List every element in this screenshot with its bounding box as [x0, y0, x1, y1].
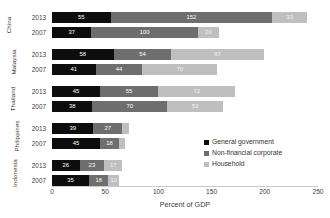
bar-row: 20133927 [0, 123, 330, 134]
year-label: 2007 [22, 139, 46, 148]
bar-value-label: 53 [167, 101, 223, 112]
bar-row: 2007351810 [0, 175, 330, 186]
bar-segment-non-financial-corporate[interactable]: 70 [92, 101, 166, 112]
bar-segment-non-financial-corporate[interactable]: 18 [100, 138, 119, 149]
legend-item[interactable]: Household [204, 159, 282, 169]
legend-label: General government [212, 138, 274, 146]
bar-value-label: 20 [198, 27, 219, 38]
bar-segment-general-government[interactable]: 38 [52, 101, 92, 112]
bar-value-label: 10 [108, 175, 119, 186]
year-label: 2013 [22, 13, 46, 22]
bar-segment-household[interactable]: 33 [272, 12, 307, 23]
bar-value-label: 23 [80, 160, 104, 171]
legend-label: Non-financial corporate [212, 149, 282, 157]
stacked-bar[interactable]: 351810 [52, 175, 119, 186]
bar-value-label: 45 [52, 138, 100, 149]
bar-segment-general-government[interactable]: 58 [52, 49, 114, 60]
x-axis-title: Percent of GDP [52, 200, 318, 209]
bar-row: 20135515233 [0, 12, 330, 23]
stacked-bar[interactable]: 387053 [52, 101, 223, 112]
bar-row: 20073710020 [0, 27, 330, 38]
bar-segment-household[interactable]: 72 [158, 86, 235, 97]
bar-value-label: 27 [93, 123, 122, 134]
bar-segment-household[interactable]: 53 [167, 101, 223, 112]
bar-segment-household[interactable] [122, 123, 128, 134]
legend-label: Household [212, 160, 245, 168]
bar-segment-non-financial-corporate[interactable]: 54 [114, 49, 171, 60]
year-label: 2013 [22, 50, 46, 59]
bar-value-label: 54 [114, 49, 171, 60]
stacked-bar[interactable]: 414470 [52, 64, 217, 75]
bar-value-label: 70 [142, 64, 216, 75]
legend-swatch-icon [204, 162, 209, 167]
stacked-bar[interactable]: 3927 [52, 123, 129, 134]
bar-segment-general-government[interactable]: 45 [52, 138, 100, 149]
x-axis-tick-label: 50 [90, 188, 120, 195]
bar-value-label: 26 [52, 160, 80, 171]
stacked-bar[interactable]: 3710020 [52, 27, 219, 38]
bar-value-label: 70 [92, 101, 166, 112]
bar-row: 2013585487 [0, 49, 330, 60]
bar-segment-household[interactable]: 87 [171, 49, 264, 60]
bar-segment-general-government[interactable]: 37 [52, 27, 91, 38]
bar-segment-non-financial-corporate[interactable]: 152 [111, 12, 273, 23]
stacked-bar[interactable]: 455572 [52, 86, 235, 97]
bar-segment-general-government[interactable]: 26 [52, 160, 80, 171]
bar-value-label: 55 [52, 12, 111, 23]
bar-segment-general-government[interactable]: 41 [52, 64, 96, 75]
country-group: Thailand20134555722007387053 [0, 86, 330, 112]
x-axis-tick-label: 150 [197, 188, 227, 195]
country-group: Malaysia20135854872007414470 [0, 49, 330, 75]
legend-swatch-icon [204, 151, 209, 156]
bar-value-label: 55 [100, 86, 159, 97]
bar-value-label: 39 [52, 123, 93, 134]
x-axis-tick-label: 250 [303, 188, 330, 195]
bar-value-label: 41 [52, 64, 96, 75]
stacked-bar[interactable]: 4518 [52, 138, 125, 149]
bar-segment-household[interactable]: 70 [142, 64, 216, 75]
bar-segment-non-financial-corporate[interactable]: 55 [100, 86, 159, 97]
stacked-bar[interactable]: 262317 [52, 160, 122, 171]
bar-value-label: 152 [111, 12, 273, 23]
bar-segment-non-financial-corporate[interactable]: 27 [93, 123, 122, 134]
bar-value-label: 18 [100, 138, 119, 149]
chart-legend: General governmentNon-financial corporat… [204, 137, 282, 170]
year-label: 2013 [22, 124, 46, 133]
bar-segment-household[interactable]: 20 [198, 27, 219, 38]
bar-value-label: 44 [96, 64, 143, 75]
year-label: 2007 [22, 176, 46, 185]
year-label: 2007 [22, 102, 46, 111]
bar-segment-non-financial-corporate[interactable]: 23 [80, 160, 104, 171]
bar-row: 2007414470 [0, 64, 330, 75]
bar-value-label: 18 [89, 175, 108, 186]
bar-row: 2013455572 [0, 86, 330, 97]
stacked-bar[interactable]: 5515233 [52, 12, 307, 23]
bar-segment-non-financial-corporate[interactable]: 100 [91, 27, 197, 38]
bar-value-label: 72 [158, 86, 235, 97]
bar-value-label: 58 [52, 49, 114, 60]
legend-item[interactable]: General government [204, 137, 282, 147]
stacked-bar-chart: China2013551523320073710020Malaysia20135… [0, 0, 330, 218]
year-label: 2013 [22, 161, 46, 170]
bar-value-label: 35 [52, 175, 89, 186]
x-axis-tick-label: 200 [250, 188, 280, 195]
bar-segment-non-financial-corporate[interactable]: 44 [96, 64, 143, 75]
x-axis-line [52, 186, 318, 187]
year-label: 2007 [22, 65, 46, 74]
bar-segment-household[interactable]: 10 [108, 175, 119, 186]
bar-segment-general-government[interactable]: 55 [52, 12, 111, 23]
bar-segment-household[interactable]: 17 [104, 160, 122, 171]
x-axis-tick-label: 100 [143, 188, 173, 195]
bar-segment-general-government[interactable]: 35 [52, 175, 89, 186]
bar-segment-non-financial-corporate[interactable]: 18 [89, 175, 108, 186]
legend-item[interactable]: Non-financial corporate [204, 148, 282, 158]
bar-segment-general-government[interactable]: 45 [52, 86, 100, 97]
stacked-bar[interactable]: 585487 [52, 49, 264, 60]
bar-value-label: 100 [91, 27, 197, 38]
legend-swatch-icon [204, 140, 209, 145]
bar-segment-general-government[interactable]: 39 [52, 123, 93, 134]
bar-segment-household[interactable] [119, 138, 125, 149]
bar-value-label: 17 [104, 160, 122, 171]
bar-row: 2007387053 [0, 101, 330, 112]
year-label: 2007 [22, 28, 46, 37]
